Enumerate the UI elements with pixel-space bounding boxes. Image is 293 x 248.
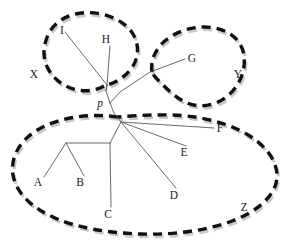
group-blob-z — [12, 115, 278, 237]
group-label-Z: Z — [240, 201, 247, 213]
tree-diagram-canvas: A B C D E F G H I p X Y Z — [0, 0, 293, 248]
node-label-p: p — [96, 97, 103, 110]
group-blob-y — [152, 27, 246, 108]
leaf-label-C: C — [104, 208, 112, 220]
group-blob-x — [44, 13, 139, 94]
leaf-labels: A B C D E F G H I — [34, 24, 223, 220]
internal-node-labels: p — [96, 97, 103, 110]
group-label-X: X — [30, 68, 39, 80]
leaf-label-F: F — [217, 122, 223, 134]
leaf-label-A: A — [34, 176, 43, 188]
group-label-Y: Y — [234, 68, 243, 80]
leaf-label-H: H — [102, 33, 110, 45]
leaf-label-E: E — [180, 146, 187, 158]
leaf-label-G: G — [188, 52, 196, 64]
phylogenetic-tree-figure: A B C D E F G H I p X Y Z — [0, 0, 293, 248]
leaf-label-B: B — [76, 176, 84, 188]
leaf-label-D: D — [170, 189, 178, 201]
tree-branch-p-to-xnode — [106, 85, 110, 103]
leaf-label-I: I — [60, 24, 64, 36]
group-labels: X Y Z — [30, 68, 248, 213]
